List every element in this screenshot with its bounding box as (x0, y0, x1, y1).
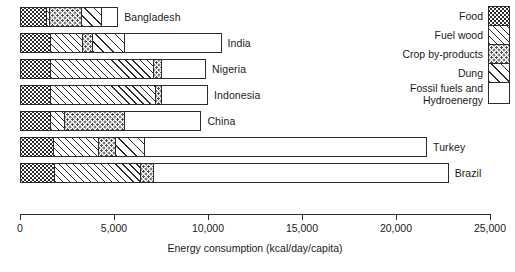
bar-segment-fossil-fuels-and-hydroenergy[interactable] (154, 164, 448, 182)
bar-segment-fossil-fuels-and-hydroenergy[interactable] (145, 138, 427, 156)
legend-item[interactable]: Fuel wood (384, 25, 510, 44)
legend-swatch-dense-dots (488, 6, 510, 25)
x-axis-tick-label: 25,000 (474, 222, 506, 234)
bar-category-label: Turkey (433, 141, 465, 153)
bar-segment-food[interactable] (21, 112, 51, 130)
bar-row: Brazil (0, 163, 515, 183)
bar-category-label: Bangladesh (124, 11, 180, 23)
bar-segment-fuel-wood[interactable] (51, 60, 154, 78)
bar-segment-dung[interactable] (93, 34, 125, 52)
bar-segment-crop-by-products[interactable] (141, 164, 154, 182)
bar-segment-fossil-fuels-and-hydroenergy[interactable] (125, 112, 201, 130)
legend-item-label: Food (459, 10, 488, 22)
x-axis-tick (396, 214, 397, 220)
stacked-bar[interactable] (20, 163, 449, 183)
bar-segment-fuel-wood[interactable] (51, 112, 65, 130)
bar-category-label: India (228, 37, 251, 49)
bar-segment-dung[interactable] (116, 138, 145, 156)
stacked-bar[interactable] (20, 59, 206, 79)
stacked-bar[interactable] (20, 85, 208, 105)
bar-segment-fuel-wood[interactable] (51, 34, 83, 52)
legend-swatch-wide-hatch (488, 63, 510, 82)
legend-swatch-sparse-dots (488, 44, 510, 63)
stacked-bar[interactable] (20, 137, 427, 157)
x-axis-title: Energy consumption (kcal/day/capita) (20, 242, 490, 254)
bar-row: China (0, 111, 515, 131)
legend: FoodFuel woodCrop by-productsDungFossil … (384, 6, 510, 108)
x-axis-tick-label: 20,000 (380, 222, 412, 234)
bar-segment-food[interactable] (21, 138, 54, 156)
legend-item-label: Dung (458, 67, 488, 79)
bar-segment-fossil-fuels-and-hydroenergy[interactable] (102, 8, 118, 26)
legend-item-label: Crop by-products (402, 48, 488, 60)
stacked-bar[interactable] (20, 111, 201, 131)
energy-consumption-chart: BangladeshIndiaNigeriaIndonesiaChinaTurk… (0, 0, 515, 272)
bar-segment-crop-by-products[interactable] (99, 138, 116, 156)
x-axis-tick-label: 0 (17, 222, 23, 234)
bar-segment-food[interactable] (21, 8, 47, 26)
bar-segment-food[interactable] (21, 60, 51, 78)
x-axis-tick-label: 15,000 (286, 222, 318, 234)
legend-item-label: Fossil fuels and Hydroenergy (410, 82, 488, 106)
stacked-bar[interactable] (20, 7, 118, 27)
x-axis-tick-label: 5,000 (101, 222, 127, 234)
bar-row: Turkey (0, 137, 515, 157)
bar-segment-crop-by-products[interactable] (83, 34, 93, 52)
bar-segment-fossil-fuels-and-hydroenergy[interactable] (162, 86, 208, 104)
legend-item[interactable]: Food (384, 6, 510, 25)
bar-segment-crop-by-products[interactable] (50, 8, 82, 26)
bar-segment-dung[interactable] (82, 8, 103, 26)
bar-segment-food[interactable] (21, 34, 51, 52)
bar-segment-crop-by-products[interactable] (65, 112, 125, 130)
legend-swatch-plain-white (488, 82, 510, 104)
bar-segment-fossil-fuels-and-hydroenergy[interactable] (125, 34, 222, 52)
bar-segment-fuel-wood[interactable] (51, 86, 156, 104)
x-axis-tick-label: 10,000 (192, 222, 224, 234)
bar-segment-food[interactable] (21, 86, 51, 104)
bar-segment-food[interactable] (21, 164, 55, 182)
x-axis-tick (208, 214, 209, 220)
bar-segment-fuel-wood[interactable] (55, 164, 141, 182)
bar-segment-fuel-wood[interactable] (54, 138, 99, 156)
legend-item[interactable]: Crop by-products (384, 44, 510, 63)
x-axis-tick (20, 214, 21, 220)
bar-category-label: Nigeria (212, 63, 246, 75)
bar-category-label: China (207, 115, 235, 127)
x-axis-tick (490, 214, 491, 220)
x-axis-line (20, 214, 490, 215)
bar-category-label: Indonesia (214, 89, 260, 101)
legend-item[interactable]: Fossil fuels and Hydroenergy (384, 82, 510, 108)
x-axis-tick (114, 214, 115, 220)
x-axis: 05,00010,00015,00020,00025,000 Energy co… (0, 214, 515, 272)
legend-item-label: Fuel wood (435, 29, 488, 41)
stacked-bar[interactable] (20, 33, 222, 53)
legend-item[interactable]: Dung (384, 63, 510, 82)
legend-swatch-diagonal-hatch (488, 25, 510, 44)
bar-category-label: Brazil (455, 167, 482, 179)
bar-segment-crop-by-products[interactable] (154, 60, 162, 78)
bar-segment-fossil-fuels-and-hydroenergy[interactable] (162, 60, 206, 78)
x-axis-tick (302, 214, 303, 220)
